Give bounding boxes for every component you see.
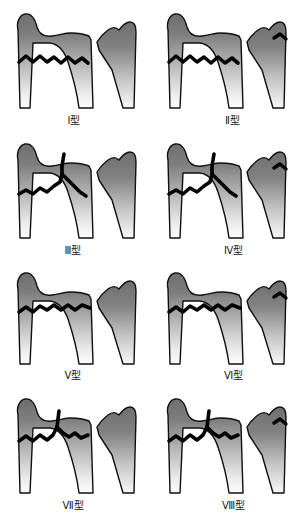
fracture-panel-2: Ⅱ型 [150,0,301,130]
tibia-fibula-illustration-8 [150,385,301,515]
tibia-shape-8 [167,399,243,493]
tibia-fibula-illustration-5 [0,260,150,385]
tibia-fibula-illustration-2 [150,0,301,130]
tibia-fibula-illustration-6 [150,260,301,385]
tibia-shape-1 [17,14,93,108]
tibia-fibula-illustration-4 [150,130,301,260]
fracture-panel-4: Ⅳ型 [150,130,301,260]
fracture-classification-figure: Ⅰ型 Ⅱ型 [0,0,301,515]
fibula-shape-3 [97,152,136,238]
tibia-shape-2 [167,14,243,108]
fracture-panel-6: Ⅵ型 [150,260,301,385]
tibia-fibula-illustration-7 [0,385,150,515]
fracture-panel-3: Ⅲ型 [0,130,150,260]
tibia-shape-7 [17,399,93,493]
fibula-shape-1 [97,22,136,108]
fracture-panel-8: Ⅷ型 [150,385,301,515]
tibia-fibula-illustration-3 [0,130,150,260]
fracture-panel-7: Ⅶ型 [0,385,150,515]
fibula-shape-5 [97,281,136,364]
tibia-fibula-illustration-1 [0,0,150,130]
tibia-shape-5 [17,273,93,364]
fracture-panel-1: Ⅰ型 [0,0,150,130]
fibula-shape-7 [97,407,136,493]
tibia-shape-6 [167,273,243,364]
fracture-panel-5: Ⅴ型 [0,260,150,385]
